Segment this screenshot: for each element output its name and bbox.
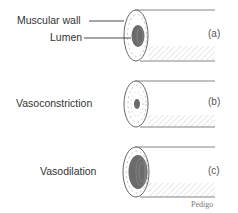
- label-muscular-wall: Muscular wall: [17, 14, 81, 26]
- label-lumen: Lumen: [50, 31, 82, 43]
- lumen-normal: [132, 25, 145, 47]
- panel-tag-b: (b): [208, 96, 220, 107]
- vessel-normal: [84, 10, 215, 61]
- label-vasoconstriction: Vasoconstriction: [16, 97, 92, 109]
- lumen-constricted: [134, 99, 140, 109]
- panel-tag-c: (c): [208, 165, 220, 176]
- credit-text: Pedigo: [191, 200, 213, 209]
- vessel-dilated: [123, 147, 215, 197]
- panel-tag-a: (a): [208, 28, 220, 39]
- label-vasodilation: Vasodilation: [40, 165, 96, 177]
- lumen-dilated: [129, 155, 148, 189]
- vessel-constricted: [124, 81, 215, 127]
